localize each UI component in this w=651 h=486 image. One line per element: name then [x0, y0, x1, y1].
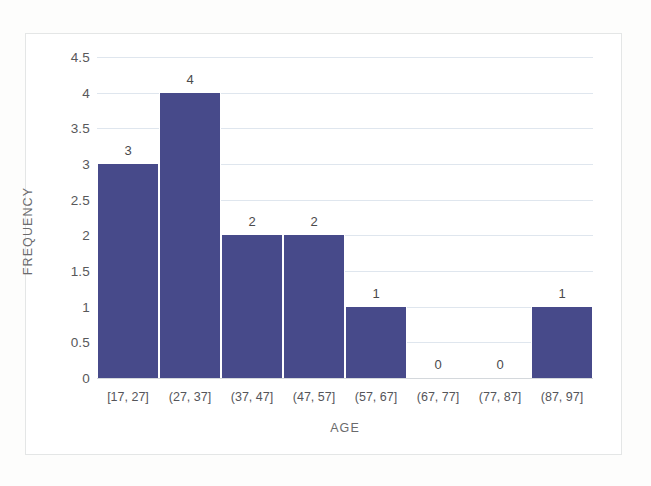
- bar[interactable]: 4: [159, 93, 221, 378]
- x-axis-tick-label: (47, 57]: [283, 390, 345, 404]
- gridline: [97, 378, 593, 379]
- bar-value-label: 4: [186, 72, 193, 87]
- bar-value-label: 2: [310, 214, 317, 229]
- y-axis-tick-label: 2.5: [71, 192, 90, 207]
- x-axis-tick-labels: [17, 27](27, 37](37, 47](47, 57](57, 67]…: [97, 390, 593, 404]
- y-axis-tick-label: 3.5: [71, 121, 90, 136]
- bar[interactable]: 1: [345, 307, 407, 378]
- bar-slot: 3: [97, 57, 159, 378]
- x-axis-title: AGE: [97, 421, 593, 435]
- y-axis-tick-label: 0.5: [71, 335, 90, 350]
- bar-slot: 0: [407, 57, 469, 378]
- bar-slot: 1: [531, 57, 593, 378]
- x-axis-tick-label: (27, 37]: [159, 390, 221, 404]
- bar-slot: 2: [221, 57, 283, 378]
- bar-slot: 0: [469, 57, 531, 378]
- chart-page: 00.511.522.533.544.5 FREQUENCY 34221001 …: [0, 0, 651, 486]
- y-axis-tick-label: 4: [82, 85, 90, 100]
- y-axis-tick-labels: 00.511.522.533.544.5: [52, 0, 90, 486]
- bar-value-label: 1: [558, 286, 565, 301]
- bar-value-label: 0: [496, 357, 503, 372]
- y-axis-tick-label: 1.5: [71, 264, 90, 279]
- bar[interactable]: 2: [221, 235, 283, 378]
- y-axis-tick-label: 2: [82, 228, 90, 243]
- plot-area: 34221001: [97, 57, 593, 378]
- bar-series: 34221001: [97, 57, 593, 378]
- x-axis-tick-label: [17, 27]: [97, 390, 159, 404]
- y-axis-tick-label: 1: [82, 299, 90, 314]
- x-axis-tick-label: (37, 47]: [221, 390, 283, 404]
- bar-value-label: 2: [248, 214, 255, 229]
- bar-slot: 2: [283, 57, 345, 378]
- bar-value-label: 3: [124, 143, 131, 158]
- bar[interactable]: 1: [531, 307, 593, 378]
- bar[interactable]: 2: [283, 235, 345, 378]
- y-axis-title: FREQUENCY: [21, 187, 35, 275]
- y-axis-tick-label: 3: [82, 157, 90, 172]
- bar-value-label: 0: [434, 357, 441, 372]
- bar-slot: 1: [345, 57, 407, 378]
- y-axis-tick-label: 0: [82, 371, 90, 386]
- x-axis-tick-label: (87, 97]: [531, 390, 593, 404]
- x-axis-tick-label: (77, 87]: [469, 390, 531, 404]
- x-axis-tick-label: (67, 77]: [407, 390, 469, 404]
- y-axis-tick-label: 4.5: [71, 50, 90, 65]
- bar-slot: 4: [159, 57, 221, 378]
- bar-value-label: 1: [372, 286, 379, 301]
- bar[interactable]: 3: [97, 164, 159, 378]
- x-axis-tick-label: (57, 67]: [345, 390, 407, 404]
